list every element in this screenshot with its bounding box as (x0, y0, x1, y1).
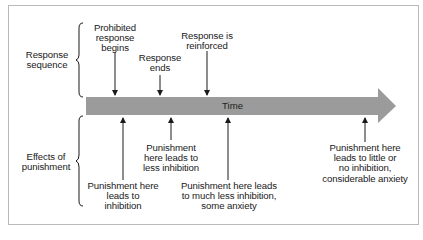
effects-of-punishment-brace (76, 116, 83, 206)
punishment-inhibition-label: Punishment here leads to inhibition (84, 181, 162, 212)
punishment-much-less-inhibition-label: Punishment here leads to much less inhib… (176, 181, 282, 212)
response-sequence-brace (76, 23, 83, 97)
punishment-little-inhibition-label: Punishment here leads to little or no in… (320, 143, 410, 184)
response-reinforced-label: Response is reinforced (175, 31, 239, 51)
response-ends-label: Response ends (132, 53, 188, 73)
effects-of-punishment-label: Effects of punishment (16, 152, 76, 172)
response-sequence-label: Response sequence (18, 50, 76, 70)
time-label: Time (222, 101, 243, 111)
punishment-less-inhibition-label: Punishment here leads to less inhibition (138, 143, 204, 174)
prohibited-response-begins-label: Prohibited response begins (85, 23, 145, 54)
